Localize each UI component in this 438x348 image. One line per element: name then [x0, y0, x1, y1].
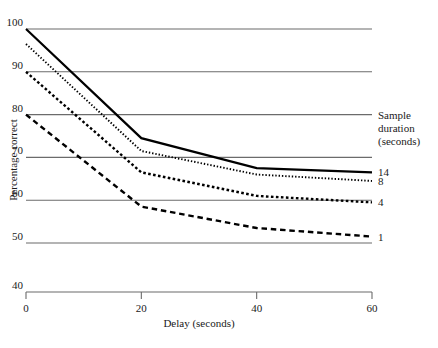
legend-label-8: 8 [378, 175, 384, 187]
y-tick-label: 40 [12, 279, 24, 291]
x-tick-label-group: 0204060 [23, 302, 378, 314]
x-axis-title: Delay (seconds) [163, 317, 235, 330]
y-tick-label: 80 [12, 102, 24, 114]
chart-canvas: 100908070605040 0204060 Delay (seconds) … [0, 0, 438, 348]
gridline-group [26, 29, 372, 243]
x-tick-label: 0 [23, 302, 29, 314]
legend-title-line-1: Sample [378, 109, 411, 121]
x-tick-group [26, 292, 372, 299]
line-chart: 100908070605040 0204060 Delay (seconds) … [0, 0, 438, 348]
x-tick-label: 20 [136, 302, 148, 314]
legend-label-4: 4 [378, 196, 384, 208]
legend-title-line-3: (seconds) [378, 135, 420, 148]
series-line-1 [26, 115, 372, 237]
series-line-8 [26, 44, 372, 181]
x-tick-label: 60 [367, 302, 379, 314]
series-group [26, 29, 372, 237]
y-axis-title: Percentage correct [7, 119, 19, 201]
x-tick-label: 40 [251, 302, 263, 314]
legend-label-1: 1 [378, 231, 384, 243]
y-tick-label: 100 [7, 16, 24, 28]
legend-title: Sample duration (seconds) [378, 109, 420, 148]
legend-label-group: 14841 [378, 166, 390, 242]
legend-title-line-2: duration [378, 122, 415, 134]
y-tick-label: 90 [12, 59, 24, 71]
series-line-14 [26, 29, 372, 172]
y-tick-label: 50 [12, 230, 24, 242]
